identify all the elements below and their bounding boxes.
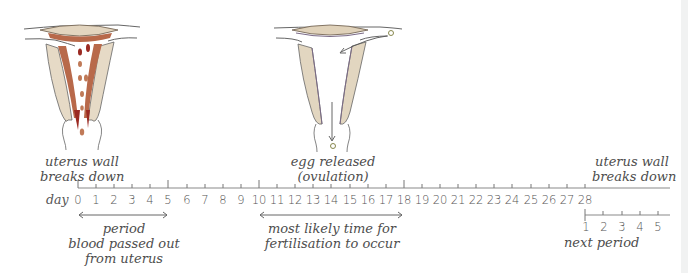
day-number: 16	[361, 193, 376, 207]
caption-line: uterus wall	[40, 154, 124, 169]
day-number: 25	[524, 193, 539, 207]
fertilisation-range-arrow	[260, 212, 402, 218]
next-period-day: 2	[600, 220, 607, 234]
day-number: 1	[92, 193, 99, 207]
next-period-day: 4	[636, 220, 643, 234]
day-number: 12	[288, 193, 303, 207]
day-number: 17	[379, 193, 394, 207]
caption-line: (ovulation)	[290, 169, 376, 184]
day-number: 5	[164, 193, 171, 207]
day-number: 2	[110, 193, 117, 207]
day-number: 28	[578, 193, 593, 207]
caption-line: breaks down	[592, 169, 672, 184]
caption-line: fertilisation to occur	[260, 236, 404, 251]
day-number: 3	[128, 193, 135, 207]
day-number: 9	[237, 193, 244, 207]
day-number: 22	[469, 193, 484, 207]
ovulation-illustration	[274, 25, 402, 152]
next-period-day: 1	[582, 220, 589, 234]
caption-line: period	[64, 221, 184, 236]
day-number: 19	[415, 193, 430, 207]
day-number: 13	[306, 193, 321, 207]
day-number: 27	[560, 193, 575, 207]
day-number: 23	[487, 193, 502, 207]
ovulation-caption: egg released (ovulation)	[290, 154, 376, 184]
day-number: 18	[397, 193, 412, 207]
day-number: 21	[451, 193, 466, 207]
period-range-arrow	[79, 212, 167, 218]
next-period-day: 3	[618, 220, 625, 234]
caption-line: from uterus	[64, 251, 184, 266]
day-number: 20	[433, 193, 448, 207]
day-number: 26	[542, 193, 557, 207]
day-number: 6	[183, 193, 190, 207]
next-period-day: 5	[654, 220, 661, 234]
day-number: 15	[343, 193, 358, 207]
period-caption: period blood passed out from uterus	[64, 221, 184, 266]
next-period-caption: next period	[564, 235, 634, 250]
day-number: 0	[74, 193, 81, 207]
caption-line: most likely time for	[260, 221, 404, 236]
day-number: 7	[201, 193, 208, 207]
day-axis-label: day	[46, 192, 69, 207]
day-number: 10	[252, 193, 267, 207]
day-number: 4	[146, 193, 153, 207]
uterus-breakdown-illustration	[24, 25, 140, 150]
caption-line: breaks down	[40, 169, 124, 184]
right-uterus-breakdown-caption: uterus wall breaks down	[592, 154, 672, 184]
caption-line: uterus wall	[592, 154, 672, 169]
caption-line: blood passed out	[64, 236, 184, 251]
fertilisation-caption: most likely time for fertilisation to oc…	[260, 221, 404, 251]
day-number: 14	[324, 193, 339, 207]
day-number: 24	[505, 193, 520, 207]
uterus-breakdown-caption: uterus wall breaks down	[40, 154, 124, 184]
day-number: 11	[270, 193, 285, 207]
caption-line: egg released	[290, 154, 376, 169]
day-number: 8	[219, 193, 226, 207]
